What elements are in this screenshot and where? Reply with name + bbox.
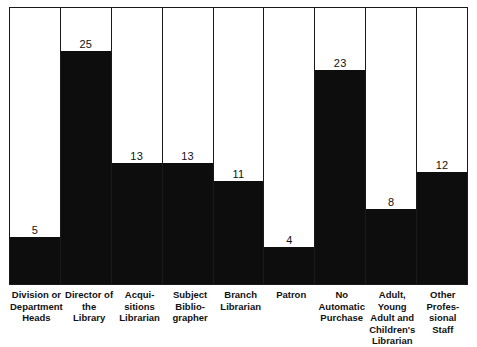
x-axis-label-row: Division or Department Heads Director of… bbox=[9, 289, 468, 345]
bar-value-label: 25 bbox=[61, 38, 111, 50]
bar-fill bbox=[315, 70, 365, 284]
bar-value-label: 4 bbox=[264, 234, 314, 246]
x-axis-label: Director of the Library bbox=[64, 289, 115, 345]
bar-column: 11 bbox=[214, 8, 265, 284]
bar-value-label: 13 bbox=[163, 150, 213, 162]
x-axis-label: Subject Biblio- grapher bbox=[165, 289, 216, 345]
bar-fill bbox=[61, 51, 111, 284]
bar-value-label: 12 bbox=[417, 159, 467, 171]
bar-fill bbox=[163, 163, 213, 284]
bar-value-label: 13 bbox=[112, 150, 162, 162]
chart-page: 5 25 13 13 11 4 23 8 bbox=[0, 0, 477, 347]
chart-plot-area: 5 25 13 13 11 4 23 8 bbox=[9, 7, 468, 285]
bar-value-label: 23 bbox=[315, 57, 365, 69]
x-axis-label: Adult, Young Adult and Children's Librar… bbox=[367, 289, 418, 345]
bar-fill bbox=[264, 247, 314, 284]
bar-column: 4 bbox=[264, 8, 315, 284]
bar-value-label: 8 bbox=[366, 196, 416, 208]
bar-column: 23 bbox=[315, 8, 366, 284]
x-axis-label: Division or Department Heads bbox=[9, 289, 64, 345]
bar-column: 8 bbox=[366, 8, 417, 284]
bar-column: 25 bbox=[61, 8, 112, 284]
bar-value-label: 11 bbox=[214, 168, 264, 180]
bar-fill bbox=[366, 209, 416, 284]
bar-column: 12 bbox=[417, 8, 467, 284]
bar-value-label: 5 bbox=[10, 224, 60, 236]
x-axis-label: Other Profes- sional Staff bbox=[418, 289, 469, 345]
bar-column: 5 bbox=[10, 8, 61, 284]
bar-fill bbox=[112, 163, 162, 284]
bar-fill bbox=[10, 237, 60, 284]
x-axis-label: Branch Librarian bbox=[215, 289, 266, 345]
x-axis-label: Patron bbox=[266, 289, 317, 345]
x-axis-label: No Automatic Purchase bbox=[316, 289, 367, 345]
bar-column: 13 bbox=[163, 8, 214, 284]
bar-fill bbox=[214, 181, 264, 284]
bar-column: 13 bbox=[112, 8, 163, 284]
bar-fill bbox=[417, 172, 467, 284]
x-axis-label: Acqui- sitions Librarian bbox=[114, 289, 165, 345]
